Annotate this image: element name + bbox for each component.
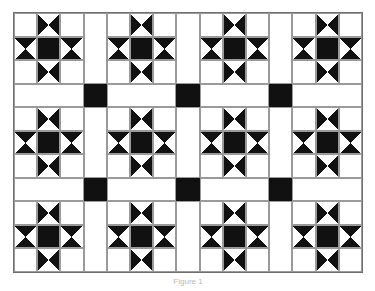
block-unit-corner-square	[60, 248, 83, 272]
block-unit-hourglass-vertical	[246, 225, 269, 249]
block-unit-hourglass-vertical	[107, 225, 130, 249]
quilt-block	[107, 107, 177, 178]
block-unit-corner-square	[200, 248, 223, 272]
cornerstone-square	[269, 178, 292, 202]
block-unit-corner-square	[14, 154, 37, 178]
block-unit-corner-square	[200, 107, 223, 131]
block-unit-hourglass-vertical	[107, 37, 130, 61]
block-unit-hourglass-vertical	[246, 131, 269, 155]
block-unit-corner-square	[339, 107, 362, 131]
block-unit-hourglass-horizontal	[316, 201, 339, 225]
quilt-block	[200, 201, 270, 272]
block-unit-hourglass-horizontal	[37, 201, 60, 225]
block-unit-corner-square	[246, 107, 269, 131]
block-unit-hourglass-horizontal	[223, 107, 246, 131]
figure-caption: Figure 1	[13, 277, 363, 286]
sashing-cornerstone	[84, 178, 107, 202]
block-unit-corner-square	[339, 154, 362, 178]
block-unit-hourglass-horizontal	[316, 60, 339, 84]
block-unit-hourglass-horizontal	[130, 248, 153, 272]
block-unit-corner-square	[153, 201, 176, 225]
sashing-strip	[176, 201, 199, 272]
block-unit-hourglass-horizontal	[130, 107, 153, 131]
block-unit-hourglass-horizontal	[130, 60, 153, 84]
block-unit-hourglass-vertical	[153, 225, 176, 249]
block-unit-corner-square	[153, 107, 176, 131]
sashing-cornerstone	[84, 84, 107, 108]
sashing-strip	[107, 84, 177, 108]
block-unit-corner-square	[292, 60, 315, 84]
quilt-frame	[13, 12, 363, 273]
block-unit-hourglass-horizontal	[316, 154, 339, 178]
block-unit-center-square	[130, 225, 153, 249]
block-unit-corner-square	[14, 13, 37, 37]
sashing-strip-horizontal	[292, 84, 362, 108]
block-unit-hourglass-horizontal	[130, 201, 153, 225]
block-unit-corner-square	[246, 154, 269, 178]
block-unit-corner-square	[200, 154, 223, 178]
block-unit-hourglass-horizontal	[37, 60, 60, 84]
sashing-strip	[292, 178, 362, 202]
sashing-strip	[14, 84, 84, 108]
block-unit-corner-square	[200, 60, 223, 84]
block-unit-center-square	[37, 131, 60, 155]
block-unit-corner-square	[246, 201, 269, 225]
block-unit-corner-square	[246, 60, 269, 84]
sashing-strip-horizontal	[200, 178, 270, 202]
block-unit-hourglass-vertical	[14, 225, 37, 249]
block-unit-hourglass-horizontal	[316, 107, 339, 131]
block-unit-corner-square	[107, 248, 130, 272]
block-unit-corner-square	[153, 248, 176, 272]
block-unit-corner-square	[292, 107, 315, 131]
quilt-block	[14, 107, 84, 178]
cornerstone-square	[84, 178, 107, 202]
cornerstone-square	[84, 84, 107, 108]
block-unit-corner-square	[200, 13, 223, 37]
block-unit-corner-square	[107, 154, 130, 178]
sashing-strip-horizontal	[14, 84, 84, 108]
sashing-strip	[269, 201, 292, 272]
quilt-block	[107, 201, 177, 272]
quilt-grid	[14, 13, 362, 272]
block-unit-hourglass-vertical	[246, 37, 269, 61]
sashing-strip	[269, 107, 292, 178]
sashing-strip-vertical	[269, 201, 292, 272]
sashing-strip-vertical	[269, 13, 292, 84]
sashing-strip	[292, 84, 362, 108]
block-unit-hourglass-horizontal	[316, 13, 339, 37]
block-unit-hourglass-horizontal	[223, 201, 246, 225]
block-unit-hourglass-vertical	[339, 225, 362, 249]
sashing-strip	[200, 84, 270, 108]
block-unit-hourglass-vertical	[339, 131, 362, 155]
block-unit-hourglass-vertical	[14, 37, 37, 61]
block-unit-hourglass-horizontal	[130, 13, 153, 37]
block-unit-corner-square	[107, 107, 130, 131]
quilt-block	[292, 201, 362, 272]
block-unit-hourglass-horizontal	[316, 248, 339, 272]
block-unit-corner-square	[107, 60, 130, 84]
block-unit-hourglass-vertical	[200, 37, 223, 61]
block-unit-corner-square	[14, 107, 37, 131]
block-unit-center-square	[223, 225, 246, 249]
block-unit-corner-square	[200, 201, 223, 225]
block-unit-hourglass-horizontal	[37, 107, 60, 131]
block-unit-hourglass-horizontal	[37, 248, 60, 272]
quilt-block	[107, 13, 177, 84]
block-unit-hourglass-horizontal	[223, 154, 246, 178]
sashing-strip-vertical	[176, 201, 199, 272]
cornerstone-square	[269, 84, 292, 108]
block-unit-corner-square	[60, 201, 83, 225]
quilt-block	[200, 13, 270, 84]
block-unit-hourglass-horizontal	[223, 13, 246, 37]
block-unit-center-square	[223, 131, 246, 155]
sashing-strip-vertical	[269, 107, 292, 178]
block-unit-corner-square	[153, 13, 176, 37]
sashing-cornerstone	[176, 178, 199, 202]
block-unit-center-square	[130, 131, 153, 155]
sashing-strip-vertical	[84, 13, 107, 84]
block-unit-corner-square	[107, 201, 130, 225]
block-unit-corner-square	[60, 154, 83, 178]
block-unit-center-square	[316, 37, 339, 61]
sashing-strip	[107, 178, 177, 202]
block-unit-corner-square	[60, 60, 83, 84]
